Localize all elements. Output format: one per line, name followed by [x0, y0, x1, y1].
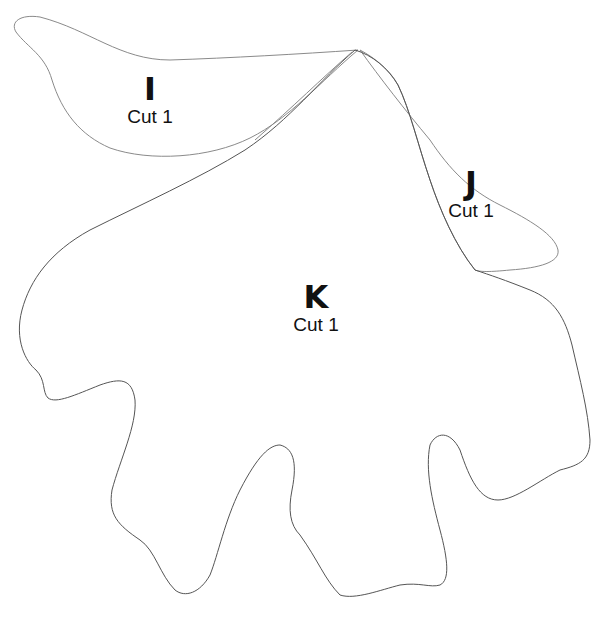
- piece-j-letter: J: [436, 166, 506, 200]
- piece-i-instruction: Cut 1: [110, 106, 190, 128]
- piece-i-letter: I: [110, 72, 190, 106]
- piece-j-outline: [360, 50, 558, 272]
- piece-j-instruction: Cut 1: [436, 200, 506, 222]
- seam-line: [255, 52, 352, 140]
- piece-k-label: K Cut 1: [276, 280, 356, 336]
- piece-j-label: J Cut 1: [436, 166, 506, 222]
- pattern-canvas: I Cut 1 J Cut 1 K Cut 1: [0, 0, 591, 618]
- piece-k-letter: K: [276, 280, 356, 314]
- piece-i-label: I Cut 1: [110, 72, 190, 128]
- piece-k-instruction: Cut 1: [276, 314, 356, 336]
